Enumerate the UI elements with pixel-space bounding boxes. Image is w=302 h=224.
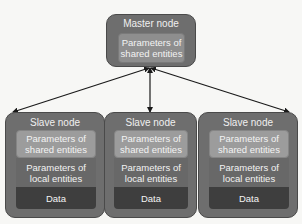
slave-node-title: Slave node xyxy=(199,117,297,129)
local-params-line1: Parameters of xyxy=(121,162,181,173)
local-params-line1: Parameters of xyxy=(26,162,86,173)
shared-params-line1: Parameters of xyxy=(26,133,86,144)
slave-local-params: Parameters of local entities xyxy=(114,158,188,187)
slave-node-title: Slave node xyxy=(6,117,104,129)
slave-shared-params: Parameters of shared entities xyxy=(209,130,289,158)
shared-params-line2: shared entities xyxy=(25,144,87,155)
local-params-line1: Parameters of xyxy=(219,162,279,173)
slave-data: Data xyxy=(114,187,188,209)
shared-params-line2: shared entities xyxy=(120,144,182,155)
master-shared-params-line2: shared entities xyxy=(121,48,183,59)
slave-local-params: Parameters of local entities xyxy=(16,158,96,187)
slave-data: Data xyxy=(209,187,289,209)
slave-node-2: Slave node Parameters of shared entities… xyxy=(104,112,197,218)
arrow-master-slave-1 xyxy=(13,68,149,112)
slave-shared-params: Parameters of shared entities xyxy=(16,130,96,158)
data-label: Data xyxy=(239,193,259,204)
slave-node-3: Slave node Parameters of shared entities… xyxy=(198,112,298,218)
shared-params-line2: shared entities xyxy=(218,144,280,155)
slave-node-title: Slave node xyxy=(105,117,196,129)
master-shared-params: Parameters of shared entities xyxy=(118,33,185,63)
data-label: Data xyxy=(46,193,66,204)
master-node-title: Master node xyxy=(107,18,195,30)
shared-params-line1: Parameters of xyxy=(121,133,181,144)
master-shared-params-line1: Parameters of xyxy=(122,37,182,48)
local-params-line2: local entities xyxy=(223,173,275,184)
master-node: Master node Parameters of shared entitie… xyxy=(106,14,196,67)
slave-shared-params: Parameters of shared entities xyxy=(114,130,188,158)
arrow-master-slave-3 xyxy=(151,68,289,112)
local-params-line2: local entities xyxy=(30,173,82,184)
data-label: Data xyxy=(141,193,161,204)
shared-params-line1: Parameters of xyxy=(219,133,279,144)
slave-data: Data xyxy=(16,187,96,209)
slave-node-1: Slave node Parameters of shared entities… xyxy=(5,112,105,218)
local-params-line2: local entities xyxy=(125,173,177,184)
slave-local-params: Parameters of local entities xyxy=(209,158,289,187)
